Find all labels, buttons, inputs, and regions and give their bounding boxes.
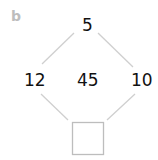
left-number: 12 <box>24 72 46 89</box>
answer-box <box>73 123 104 155</box>
top-number: 5 <box>82 17 93 34</box>
right-number: 10 <box>131 72 153 89</box>
center-number: 45 <box>77 72 99 89</box>
